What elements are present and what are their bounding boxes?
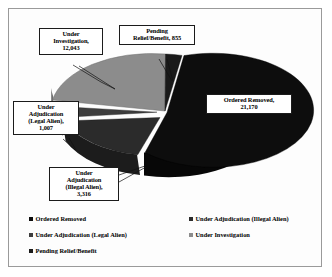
chart-figure: Under Investigation, 12,043 Pending Reli… (8, 8, 322, 267)
legend-swatch-icon (29, 249, 33, 253)
data-label-pending-relief-benefit: Pending Relief/Benefit, 855 (119, 25, 195, 45)
legend-item-under-adjudication-illegal[interactable]: Under Adjudication (Illegal Alien) (189, 215, 289, 222)
legend-item-under-adjudication-legal[interactable]: Under Adjudication (Legal Alien) (29, 231, 127, 238)
data-label-under-adjudication-legal: Under Adjudication (Legal Alien), 1,007 (13, 101, 79, 135)
legend-label: Under Investigation (196, 231, 250, 238)
legend-label: Pending Relief/Benefit (36, 247, 97, 254)
label-line-4: 3,316 (52, 191, 116, 198)
label-line-2: Relief/Benefit, 855 (122, 35, 192, 42)
label-line-3: 12,043 (42, 45, 100, 52)
label-line-4: 1,007 (16, 125, 76, 132)
chart-legend: Ordered Removed Under Adjudication (Ille… (29, 215, 315, 265)
legend-swatch-icon (189, 217, 193, 221)
legend-swatch-icon (29, 233, 33, 237)
legend-label: Under Adjudication (Legal Alien) (36, 231, 127, 238)
data-label-ordered-removed: Ordered Removed, 21,170 (206, 94, 292, 114)
legend-swatch-icon (189, 233, 193, 237)
legend-item-under-investigation[interactable]: Under Investigation (189, 231, 250, 238)
legend-label: Ordered Removed (36, 215, 86, 222)
legend-item-pending-relief-benefit[interactable]: Pending Relief/Benefit (29, 247, 97, 254)
legend-label: Under Adjudication (Illegal Alien) (196, 215, 289, 222)
label-line-2: 21,170 (209, 104, 289, 111)
legend-swatch-icon (29, 217, 33, 221)
data-label-under-adjudication-illegal: Under Adjudication (Illegal Alien), 3,31… (49, 167, 119, 201)
legend-item-ordered-removed[interactable]: Ordered Removed (29, 215, 86, 222)
data-label-under-investigation: Under Investigation, 12,043 (39, 28, 103, 55)
